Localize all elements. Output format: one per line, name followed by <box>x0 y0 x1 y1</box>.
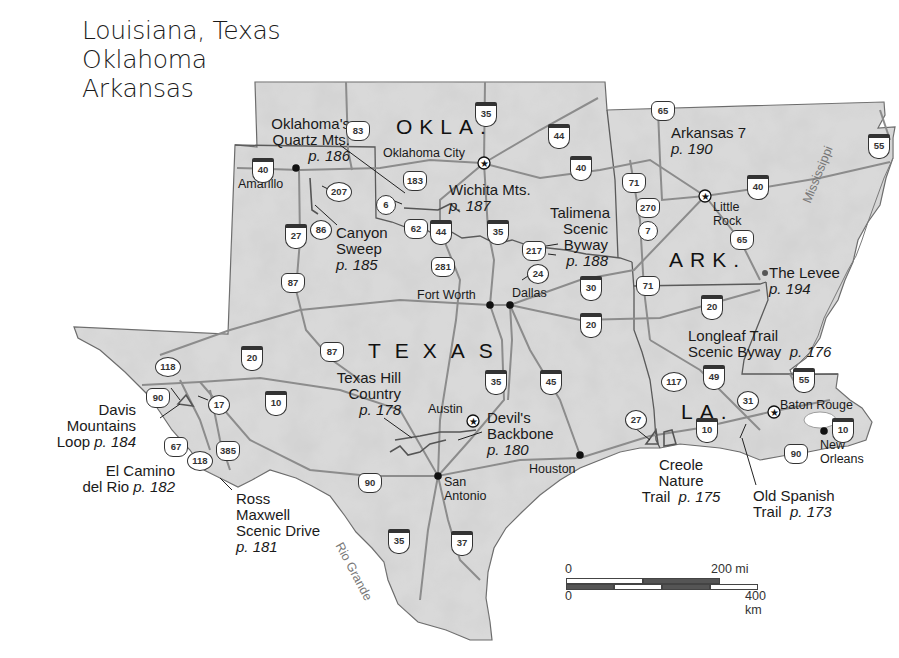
city-dallas: Dallas <box>512 286 547 300</box>
svg-text:★: ★ <box>469 416 478 427</box>
scale-km-label: 400 km <box>745 589 766 617</box>
us-shield-65-south: 65 <box>730 230 754 250</box>
interstate-shield-20-tx: 20 <box>580 313 602 338</box>
route-the-levee[interactable]: The Levee p. 194 <box>769 265 840 297</box>
route-canyon-sweep[interactable]: Canyon Sweep p. 185 <box>336 225 388 273</box>
us-shield-270: 270 <box>636 198 660 218</box>
state-shield-31: 31 <box>737 391 759 411</box>
interstate-shield-10-west: 10 <box>265 391 287 416</box>
us-shield-71-north: 71 <box>622 173 646 193</box>
interstate-shield-49: 49 <box>703 365 725 390</box>
interstate-shield-40-ar: 40 <box>747 175 769 200</box>
state-shield-6: 6 <box>376 195 396 215</box>
us-shield-281: 281 <box>431 257 455 277</box>
svg-text:★: ★ <box>770 407 779 418</box>
state-shield-207: 207 <box>326 182 352 202</box>
scale-km-seg1 <box>566 584 614 590</box>
route-ross-maxwell[interactable]: Ross Maxwell Scenic Drive p. 181 <box>236 491 320 555</box>
route-creole-nature-trail[interactable]: Creole Nature Trail p. 175 <box>636 457 726 505</box>
scale-bar: 0 200 mi 0 400 km <box>563 562 763 602</box>
us-shield-71-south: 71 <box>636 276 660 296</box>
city-baton-rouge: Baton Rouge <box>780 398 853 412</box>
interstate-shield-27: 27 <box>285 224 307 249</box>
scale-miles-label: 200 mi <box>711 562 749 576</box>
us-shield-90-tx: 90 <box>358 473 382 493</box>
route-talimena[interactable]: Talimena Scenic Byway p. 188 <box>550 205 608 269</box>
scale-km-seg3 <box>662 584 710 590</box>
us-shield-90-west: 90 <box>146 388 170 408</box>
interstate-shield-30: 30 <box>580 276 602 301</box>
route-old-spanish-trail[interactable]: Old Spanish Trail p. 173 <box>753 488 835 520</box>
route-longleaf-trail[interactable]: Longleaf Trail Scenic Byway p. 176 <box>688 328 831 360</box>
route-wichita-mts[interactable]: Wichita Mts. p. 187 <box>449 182 531 214</box>
route-el-camino-del-rio[interactable]: El Camino del Rio p. 182 <box>65 463 175 495</box>
interstate-shield-40-ok: 40 <box>570 156 592 181</box>
scale-km-seg2 <box>614 584 662 590</box>
route-davis-mountains[interactable]: Davis Mountains Loop p. 184 <box>36 402 136 450</box>
us-shield-217: 217 <box>522 241 546 261</box>
state-shield-118-north: 118 <box>155 357 181 377</box>
interstate-shield-55-ar: 55 <box>868 134 890 159</box>
city-san-antonio: San Antonio <box>444 475 486 503</box>
interstate-shield-40-west: 40 <box>252 158 274 183</box>
route-devils-backbone[interactable]: Devil's Backbone p. 180 <box>487 410 554 458</box>
us-shield-67: 67 <box>164 437 188 457</box>
city-little-rock: Little Rock <box>713 200 741 228</box>
interstate-shield-20-la: 20 <box>701 295 723 320</box>
city-fort-worth: Fort Worth <box>417 288 476 302</box>
route-texas-hill-country[interactable]: Texas Hill Country p. 178 <box>325 370 401 418</box>
interstate-shield-37: 37 <box>451 531 473 556</box>
scale-miles-zero: 0 <box>565 562 572 576</box>
route-quartz-mts[interactable]: Oklahoma's Quartz Mts. p. 186 <box>242 116 350 164</box>
interstate-shield-44-south: 44 <box>430 220 452 245</box>
us-shield-62: 62 <box>404 219 428 239</box>
us-shield-183: 183 <box>403 171 427 191</box>
state-shield-17: 17 <box>208 395 230 415</box>
title-line-3: Arkansas <box>82 74 280 103</box>
us-shield-87-south: 87 <box>320 342 344 362</box>
interstate-shield-45: 45 <box>540 370 562 395</box>
svg-text:★: ★ <box>480 158 489 169</box>
us-shield-83: 83 <box>346 121 370 141</box>
route-arkansas-7[interactable]: Arkansas 7 p. 190 <box>671 125 746 157</box>
state-shield-24: 24 <box>527 264 549 284</box>
interstate-shield-10-la: 10 <box>696 418 718 443</box>
city-houston: Houston <box>529 462 576 476</box>
interstate-shield-35-ok: 35 <box>487 220 509 245</box>
capital-star-okc: ★ <box>478 157 490 169</box>
capital-star-baton-rouge: ★ <box>768 406 780 418</box>
interstate-shield-35-tx: 35 <box>485 370 507 395</box>
map-title: Louisiana, Texas Oklahoma Arkansas <box>82 16 280 103</box>
capital-star-austin: ★ <box>467 415 479 427</box>
us-shield-87-north: 87 <box>281 273 305 293</box>
interstate-shield-44: 44 <box>548 124 570 149</box>
interstate-shield-55-la: 55 <box>793 368 815 393</box>
scale-km-zero: 0 <box>565 589 572 603</box>
state-shield-86: 86 <box>310 220 332 240</box>
us-shield-385: 385 <box>216 441 240 461</box>
state-label-arkansas: ARK. <box>669 248 746 272</box>
us-shield-90-la: 90 <box>784 444 808 464</box>
title-line-1: Louisiana, Texas <box>82 16 280 45</box>
state-shield-118-south: 118 <box>187 451 213 471</box>
interstate-shield-35-south: 35 <box>388 529 410 554</box>
capital-star-little-rock: ★ <box>699 190 711 202</box>
title-line-2: Oklahoma <box>82 45 280 74</box>
us-shield-65-north: 65 <box>651 101 675 121</box>
interstate-shield-35: 35 <box>475 102 497 127</box>
state-shield-117: 117 <box>661 372 687 392</box>
state-shield-27: 27 <box>625 410 647 430</box>
state-label-texas: TEXAS <box>368 339 507 363</box>
state-shield-7: 7 <box>638 221 658 241</box>
interstate-shield-10-nola: 10 <box>832 418 854 443</box>
city-austin: Austin <box>428 402 463 416</box>
interstate-shield-20-west: 20 <box>241 346 263 371</box>
city-oklahoma-city: Oklahoma City <box>383 146 465 160</box>
svg-text:★: ★ <box>701 191 710 202</box>
